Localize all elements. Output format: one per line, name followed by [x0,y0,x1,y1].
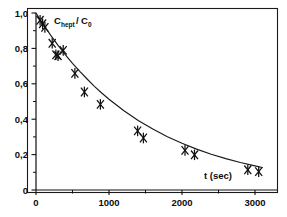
data-point-markers [37,15,263,177]
y-tick-label-0_2: 0,2 [15,149,28,160]
data-point-marker [49,38,56,49]
data-point-marker [60,45,67,56]
x-axis-title: t (sec) [204,170,232,181]
data-point-marker [97,99,104,110]
data-point-marker [255,166,262,177]
data-point-marker [244,165,251,176]
y-tick-label-1_0: 1,0 [15,8,28,19]
data-point-marker [81,87,88,98]
y-axis-title-sub-hept: hept [61,21,76,29]
chart-plot-area: 1,0 0,8 0,6 0,4 0,2 0 0 1000 2000 3000 C… [0,0,287,217]
x-tick-label-0: 0 [33,197,38,208]
plot-frame [28,9,278,193]
y-tick-label-0_6: 0,6 [15,78,28,89]
data-point-marker [140,133,147,144]
data-point-marker [182,145,189,156]
data-point-marker [71,68,78,79]
fit-curve [36,13,262,168]
y-axis-title-sub-zero: 0 [88,21,92,28]
y-tick-label-0_8: 0,8 [15,43,28,54]
chart-figure: 1,0 0,8 0,6 0,4 0,2 0 0 1000 2000 3000 C… [0,0,287,217]
y-axis-title-slash: / [76,15,79,26]
y-axis-title: C hept / C 0 [54,15,92,29]
y-tick-label-0_4: 0,4 [15,114,29,125]
x-tick-label-2000: 2000 [171,197,192,208]
data-point-marker [191,150,198,161]
y-tick-label-0: 0 [23,185,28,196]
x-tick-label-1000: 1000 [98,197,119,208]
y-axis-title-base-1: C [54,15,61,26]
x-tick-label-3000: 3000 [244,197,265,208]
y-axis-title-base-2: C [81,15,88,26]
